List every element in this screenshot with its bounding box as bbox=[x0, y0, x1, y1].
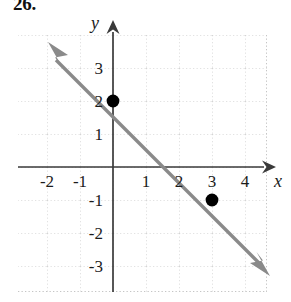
grid-lines bbox=[18, 35, 267, 292]
y-tick-label-neg3: -3 bbox=[89, 257, 103, 276]
y-axis-arrow-icon bbox=[107, 20, 120, 34]
y-tick-label-neg2: -2 bbox=[89, 224, 103, 243]
y-axis-label: y bbox=[89, 13, 99, 33]
coordinate-plane-graph: y x -2 -1 1 2 3 4 3 2 1 -1 -2 -3 bbox=[0, 0, 291, 302]
x-axis-label: x bbox=[273, 171, 282, 191]
x-tick-label-neg1: -1 bbox=[73, 172, 87, 191]
point-3-neg1 bbox=[206, 194, 219, 207]
y-tick-label-2: 2 bbox=[95, 92, 104, 111]
x-tick-label-neg2: -2 bbox=[40, 172, 54, 191]
point-0-2 bbox=[107, 95, 120, 108]
x-tick-label-4: 4 bbox=[241, 172, 250, 191]
y-tick-label-1: 1 bbox=[95, 125, 104, 144]
y-tick-label-neg1: -1 bbox=[89, 191, 103, 210]
x-tick-label-1: 1 bbox=[142, 172, 151, 191]
figure-container: 26. bbox=[0, 0, 291, 302]
x-tick-label-3: 3 bbox=[208, 172, 217, 191]
y-tick-label-3: 3 bbox=[95, 59, 104, 78]
x-tick-label-2: 2 bbox=[175, 172, 184, 191]
